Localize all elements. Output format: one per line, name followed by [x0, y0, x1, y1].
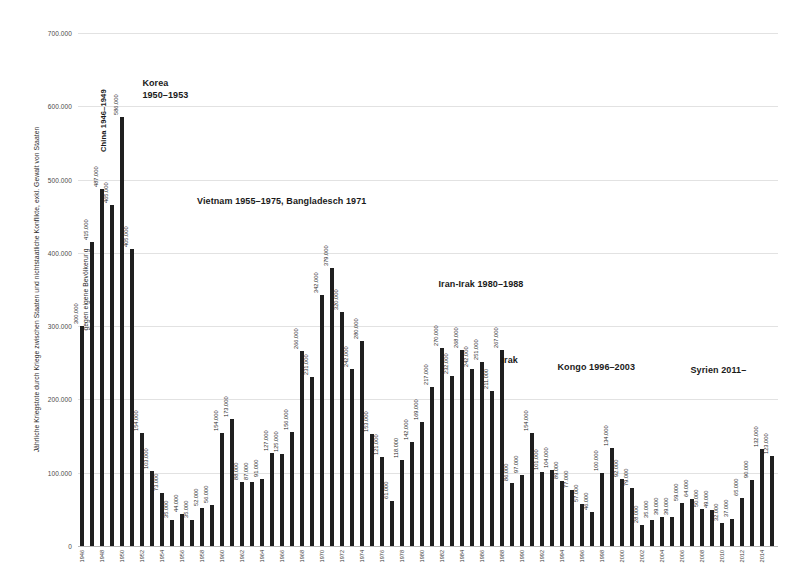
- bar[interactable]: [460, 350, 463, 546]
- bar-slot[interactable]: 35.000: [648, 33, 658, 546]
- bar-slot[interactable]: 57.0001996: [578, 33, 588, 546]
- bar[interactable]: [200, 508, 203, 546]
- bar-slot[interactable]: 37.000: [728, 33, 738, 546]
- bar-slot[interactable]: 64.000: [688, 33, 698, 546]
- bar-slot[interactable]: 132.0002014: [758, 33, 768, 546]
- bar-slot[interactable]: 77.000: [568, 33, 578, 546]
- bar-slot[interactable]: 28.0002002: [638, 33, 648, 546]
- bar-slot[interactable]: 101.0001992: [538, 33, 548, 546]
- bar[interactable]: [650, 520, 653, 546]
- bar[interactable]: [430, 387, 433, 546]
- bar-slot[interactable]: 123.000: [768, 33, 778, 546]
- bar-slot[interactable]: 103.000: [148, 33, 158, 546]
- bar[interactable]: [620, 479, 623, 546]
- bar-slot[interactable]: 266.0001968: [298, 33, 308, 546]
- bar[interactable]: [450, 376, 453, 546]
- bar-slot[interactable]: 52.0001958: [198, 33, 208, 546]
- bar[interactable]: [410, 442, 413, 546]
- bar-slot[interactable]: 35.000: [188, 33, 198, 546]
- bar-slot[interactable]: 154.0001952: [138, 33, 148, 546]
- bar-slot[interactable]: 586.0001950: [118, 33, 128, 546]
- bar-slot[interactable]: 121.0001976: [378, 33, 388, 546]
- bar[interactable]: [130, 249, 133, 546]
- bar[interactable]: [580, 504, 583, 546]
- bar-slot[interactable]: 61.000: [388, 33, 398, 546]
- bar[interactable]: [700, 509, 703, 546]
- bar[interactable]: [520, 475, 523, 546]
- bar[interactable]: [280, 454, 283, 546]
- bar[interactable]: [640, 525, 643, 546]
- bar[interactable]: [480, 362, 483, 546]
- bar[interactable]: [350, 369, 353, 546]
- bar[interactable]: [760, 449, 763, 546]
- bar[interactable]: [220, 433, 223, 546]
- bar[interactable]: [190, 520, 193, 546]
- bar[interactable]: [120, 117, 123, 546]
- bar-slot[interactable]: 90.000: [748, 33, 758, 546]
- bar[interactable]: [720, 523, 723, 546]
- bar[interactable]: [100, 189, 103, 546]
- bar-slot[interactable]: 280.0001974: [358, 33, 368, 546]
- bar[interactable]: [730, 519, 733, 546]
- bar-slot[interactable]: 50.0002008: [698, 33, 708, 546]
- bar-slot[interactable]: 35.000: [168, 33, 178, 546]
- bar[interactable]: [470, 369, 473, 546]
- bar[interactable]: [510, 483, 513, 546]
- bar-slot[interactable]: 49.000: [708, 33, 718, 546]
- bar-slot[interactable]: 32.0002010: [718, 33, 728, 546]
- bar-slot[interactable]: 242.000: [348, 33, 358, 546]
- bar[interactable]: [170, 520, 173, 546]
- bar[interactable]: [230, 419, 233, 546]
- bar[interactable]: [390, 501, 393, 546]
- bar[interactable]: [420, 422, 423, 546]
- bar-slot[interactable]: 89.0001994: [558, 33, 568, 546]
- bar[interactable]: [210, 505, 213, 546]
- bar[interactable]: [310, 377, 313, 546]
- bar-slot[interactable]: 154.0001960: [218, 33, 228, 546]
- bar[interactable]: [660, 517, 663, 546]
- bar-slot[interactable]: 100.0001998: [598, 33, 608, 546]
- bar-slot[interactable]: 56.000: [208, 33, 218, 546]
- bar[interactable]: [600, 473, 603, 546]
- bar[interactable]: [740, 498, 743, 546]
- bar-slot[interactable]: 142.000: [408, 33, 418, 546]
- bar-slot[interactable]: 320.0001972: [338, 33, 348, 546]
- bar[interactable]: [770, 456, 773, 546]
- bar[interactable]: [90, 242, 93, 546]
- bar[interactable]: [110, 205, 113, 546]
- bar[interactable]: [180, 514, 183, 546]
- bar[interactable]: [540, 472, 543, 546]
- bar-slot[interactable]: 169.0001980: [418, 33, 428, 546]
- bar[interactable]: [500, 350, 503, 546]
- bar-slot[interactable]: 39.000: [668, 33, 678, 546]
- bar[interactable]: [260, 479, 263, 546]
- bar-slot[interactable]: 156.000: [288, 33, 298, 546]
- bar-slot[interactable]: 44.0001956: [178, 33, 188, 546]
- bar-slot[interactable]: 91.0001964: [258, 33, 268, 546]
- bar[interactable]: [240, 482, 243, 546]
- bar[interactable]: [670, 517, 673, 546]
- bar-slot[interactable]: 59.0002006: [678, 33, 688, 546]
- bar[interactable]: [270, 453, 273, 546]
- bar[interactable]: [400, 460, 403, 546]
- bar-slot[interactable]: 39.0002004: [658, 33, 668, 546]
- bar[interactable]: [440, 348, 443, 546]
- bar[interactable]: [320, 295, 323, 546]
- bar-slot[interactable]: 79.000: [628, 33, 638, 546]
- bar-slot[interactable]: 118.0001978: [398, 33, 408, 546]
- bar[interactable]: [380, 457, 383, 546]
- bar[interactable]: [250, 482, 253, 546]
- bar[interactable]: [750, 480, 753, 546]
- bar-slot[interactable]: 405.000: [128, 33, 138, 546]
- bar-slot[interactable]: 153.000: [368, 33, 378, 546]
- bar[interactable]: [80, 326, 83, 546]
- bar-slot[interactable]: 73.0001954: [158, 33, 168, 546]
- bar-slot[interactable]: 125.0001966: [278, 33, 288, 546]
- bar[interactable]: [490, 391, 493, 546]
- bar[interactable]: [590, 512, 593, 546]
- bar[interactable]: [560, 481, 563, 546]
- bar[interactable]: [300, 351, 303, 546]
- bar[interactable]: [680, 503, 683, 546]
- bar-slot[interactable]: 217.000: [428, 33, 438, 546]
- bar[interactable]: [290, 432, 293, 546]
